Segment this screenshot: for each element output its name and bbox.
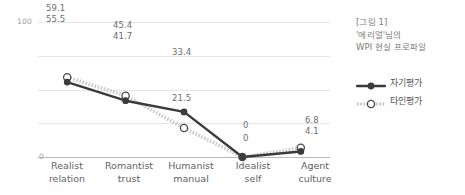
axis-baseline (38, 157, 330, 158)
markers-other-evaluation (64, 74, 305, 161)
series-타인평가 (67, 77, 301, 157)
data-label-idealist-other: 0 (243, 120, 249, 130)
caption-legend-block: [그림 1] '에리얼'님의 WPI 현실 프로파일 자기평가 (356, 16, 461, 112)
x-label-agent-line1: Agent (277, 160, 353, 173)
legend-label-other-evaluation: 타인평가 (390, 94, 422, 107)
y-axis-tick-100: 100 (6, 17, 32, 26)
x-axis-labels: Realist relation Romantist trust Humanis… (38, 160, 330, 195)
data-label-humanist-other: 21.5 (172, 93, 191, 103)
x-label-agent-line2: culture (277, 173, 353, 186)
legend-marker-open-circle-icon (356, 95, 386, 107)
data-label-humanist-self: 33.4 (172, 47, 191, 57)
markers-self-evaluation (64, 79, 304, 161)
chart-legend: 자기평가 타인평가 (356, 76, 461, 108)
data-label-realist-other: 59.1 (46, 3, 65, 13)
data-label-idealist-self: 0 (243, 133, 249, 143)
point-self-1 (122, 97, 129, 104)
data-label-realist-self: 55.5 (46, 14, 65, 24)
data-label-agent-self: 4.1 (305, 126, 319, 136)
x-label-agent: Agent culture (277, 160, 353, 185)
legend-item-other-evaluation[interactable]: 타인평가 (356, 94, 461, 108)
legend-item-self-evaluation[interactable]: 자기평가 (356, 76, 461, 90)
caption-line-1: [그림 1] (356, 16, 461, 29)
figure-caption: [그림 1] '에리얼'님의 WPI 현실 프로파일 (356, 16, 461, 54)
point-self-4 (297, 148, 304, 155)
series-svg (38, 22, 330, 157)
chart-screenshot: 100 0 59.1 55.5 45.4 41. (0, 0, 465, 195)
caption-line-3: WPI 현실 프로파일 (356, 41, 461, 54)
caption-line-2: '에리얼'님의 (356, 29, 461, 42)
line-chart: 100 0 59.1 55.5 45.4 41. (0, 0, 340, 195)
plot-area: 59.1 55.5 45.4 41.7 33.4 21.5 0 0 6.8 4.… (38, 22, 330, 157)
data-label-romantist-self: 41.7 (113, 31, 132, 41)
point-self-0 (64, 79, 71, 86)
point-other-2 (180, 124, 187, 131)
line-other-evaluation (67, 77, 301, 157)
legend-marker-filled-circle-icon (356, 77, 386, 89)
data-label-romantist-other: 45.4 (113, 20, 132, 30)
point-self-2 (181, 109, 188, 116)
legend-label-self-evaluation: 자기평가 (390, 76, 422, 89)
data-label-agent-other: 6.8 (305, 115, 319, 125)
